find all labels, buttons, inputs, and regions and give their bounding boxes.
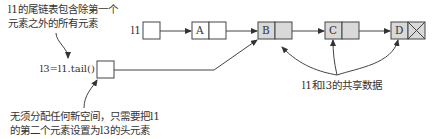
l3-label: l3=l1.tail() (40, 62, 95, 76)
l1-label: l1 (131, 23, 141, 37)
annotation-no-alloc: 无须分配任何新空间，只需要把l1 的第二个元素设置为l3的头元素 (10, 109, 160, 137)
annotation-shared: l1和l3的共享数据 (302, 78, 382, 92)
node-a-label: A (196, 23, 204, 37)
l1-pointer-box (143, 22, 160, 39)
l3-pointer-box (97, 61, 114, 78)
node-c-label: C (329, 23, 337, 37)
node-d-label: D (395, 23, 403, 37)
annotation-tail: l1的尾链表包含除第一个 元素之外的所有元素 (8, 2, 118, 30)
node-b-label: B (262, 23, 270, 37)
